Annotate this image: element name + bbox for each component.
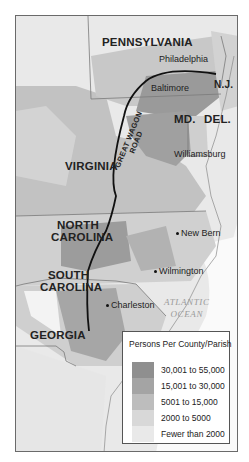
city-name: New Bern <box>181 228 221 238</box>
legend-title: Persons Per County/Parish <box>129 339 232 349</box>
city-label-new-bern: New Bern <box>176 228 221 238</box>
ocean-label: ATLANTIC OCEAN <box>164 296 209 320</box>
state-label-south-carolina-2: CAROLINA <box>40 281 102 293</box>
legend-swatches <box>132 362 154 442</box>
city-label-charleston: Charleston <box>106 300 155 310</box>
city-name: Williamsburg <box>174 149 226 159</box>
city-name: Wilmington <box>159 266 204 276</box>
state-label-del: DEL. <box>204 113 231 125</box>
state-label-virginia: VIRGINIA <box>65 160 118 172</box>
map-legend: Persons Per County/Parish 30,001 to 55,0… <box>122 331 230 444</box>
state-label-north-carolina-1: NORTH <box>57 219 99 231</box>
legend-labels: 30,001 to 55,000 15,001 to 30,000 5001 t… <box>161 362 225 442</box>
legend-swatch-1 <box>132 362 154 378</box>
legend-swatch-2 <box>132 378 154 394</box>
legend-label: 30,001 to 55,000 <box>161 362 225 378</box>
state-label-north-carolina-2: CAROLINA <box>51 231 113 243</box>
state-label-nj: N.J. <box>214 79 233 91</box>
city-label-philadelphia: Philadelphia <box>159 54 208 64</box>
ocean-label-line2: OCEAN <box>164 308 209 320</box>
city-name: Philadelphia <box>159 54 208 64</box>
legend-swatch-3 <box>132 394 154 410</box>
state-label-south-carolina-1: SOUTH <box>48 269 89 281</box>
city-name: Baltimore <box>151 83 189 93</box>
legend-swatch-4 <box>132 410 154 426</box>
city-dot-icon <box>106 304 109 307</box>
city-dot-icon <box>154 270 157 273</box>
legend-label: 15,001 to 30,000 <box>161 378 225 394</box>
legend-label: 5001 to 15,000 <box>161 394 225 410</box>
state-label-md: MD. <box>174 113 196 125</box>
city-label-wilmington: Wilmington <box>154 266 204 276</box>
city-name: Charleston <box>111 300 155 310</box>
state-label-georgia: GEORGIA <box>30 329 86 341</box>
city-dot-icon <box>176 232 179 235</box>
city-label-williamsburg: Williamsburg <box>174 149 226 159</box>
legend-swatch-5 <box>132 426 154 442</box>
legend-label: 2000 to 5000 <box>161 410 225 426</box>
state-label-pennsylvania: PENNSYLVANIA <box>102 36 193 48</box>
ocean-label-line1: ATLANTIC <box>164 296 209 308</box>
city-label-baltimore: Baltimore <box>151 83 189 93</box>
legend-label: Fewer than 2000 <box>161 426 225 442</box>
